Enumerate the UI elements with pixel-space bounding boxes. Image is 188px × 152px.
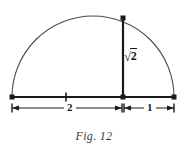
left-endpoint-dot	[10, 95, 15, 100]
dimension-2-right-arrowhead	[115, 106, 122, 111]
arc-point-dot	[121, 16, 126, 21]
semicircle-arc	[12, 16, 174, 97]
radicand-value: 2	[130, 48, 137, 63]
height-label-sqrt2: √2	[124, 50, 137, 63]
dimension-2-left-arrowhead	[12, 106, 19, 111]
figure-caption: Fig. 12	[0, 129, 188, 144]
dimension-label-left: 2	[64, 102, 76, 113]
dimension-1-right-arrowhead	[167, 106, 174, 111]
foot-point-dot	[121, 95, 126, 100]
dimension-1-left-arrowhead	[124, 106, 131, 111]
right-endpoint-dot	[172, 95, 177, 100]
dimension-label-right: 1	[144, 102, 156, 113]
figure-container: √2 2 1 Fig. 12	[0, 0, 188, 152]
